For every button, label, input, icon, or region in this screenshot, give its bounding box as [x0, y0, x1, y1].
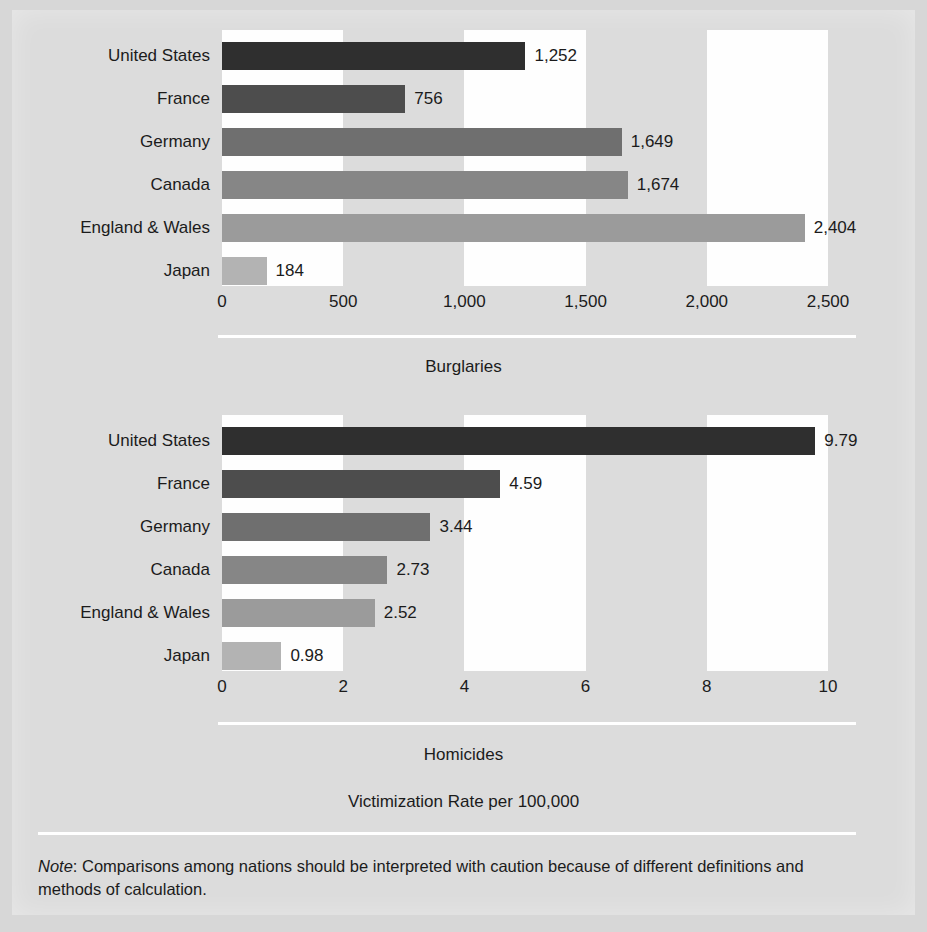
bar: [222, 171, 628, 199]
category-label: France: [157, 470, 222, 498]
bar-value-label: 1,674: [628, 171, 680, 199]
axis-tick-label: 0: [217, 677, 226, 697]
bar-row: England & Wales2.52: [222, 599, 828, 627]
category-label: England & Wales: [80, 599, 222, 627]
category-label: Canada: [150, 556, 222, 584]
bar-row: Canada2.73: [222, 556, 828, 584]
bar: [222, 257, 267, 285]
bar-row: France756: [222, 85, 828, 113]
category-label: United States: [108, 42, 222, 70]
category-label: Japan: [164, 257, 222, 285]
bar-value-label: 184: [267, 257, 304, 285]
bar-value-label: 2.73: [387, 556, 429, 584]
bar-value-label: 2,404: [805, 214, 857, 242]
chart-homicides: United States9.79France4.59Germany3.44Ca…: [222, 415, 828, 675]
bar-row: Japan184: [222, 257, 828, 285]
axis-tick-label: 6: [581, 677, 590, 697]
category-label: Japan: [164, 642, 222, 670]
bar-row: United States9.79: [222, 427, 828, 455]
bar-value-label: 3.44: [430, 513, 472, 541]
axis-tick-label: 500: [329, 292, 357, 312]
bar-value-label: 1,649: [622, 128, 674, 156]
axis-tick-label: 2,500: [807, 292, 850, 312]
bar-row: Germany1,649: [222, 128, 828, 156]
axis-tick-label: 1,500: [564, 292, 607, 312]
chart-title-burglaries: Burglaries: [0, 357, 927, 377]
note-text: : Comparisons among nations should be in…: [38, 857, 804, 898]
axis-tick-label: 10: [819, 677, 838, 697]
bar-row: Germany3.44: [222, 513, 828, 541]
plot-area-homicides: United States9.79France4.59Germany3.44Ca…: [222, 415, 828, 671]
chart-title-homicides: Homicides: [0, 745, 927, 765]
figure-note: Note: Comparisons among nations should b…: [38, 855, 838, 902]
bar: [222, 513, 430, 541]
axis-caption: Victimization Rate per 100,000: [0, 792, 927, 812]
axis-tick-label: 8: [702, 677, 711, 697]
axis-tick-label: 2: [338, 677, 347, 697]
bar-value-label: 0.98: [281, 642, 323, 670]
bar: [222, 128, 622, 156]
divider-rule-top: [218, 335, 856, 338]
bar: [222, 85, 405, 113]
figure-panel: United States1,252France756Germany1,649C…: [0, 0, 927, 932]
x-axis-homicides: 0246810: [222, 677, 828, 703]
bar-value-label: 1,252: [525, 42, 577, 70]
note-label: Note: [38, 857, 73, 875]
axis-tick-label: 1,000: [443, 292, 486, 312]
bar-value-label: 756: [405, 85, 442, 113]
bar: [222, 427, 815, 455]
bar-row: Canada1,674: [222, 171, 828, 199]
category-label: Canada: [150, 171, 222, 199]
axis-tick-label: 2,000: [686, 292, 729, 312]
bar: [222, 42, 525, 70]
axis-tick-label: 0: [217, 292, 226, 312]
bar-row: Japan0.98: [222, 642, 828, 670]
category-label: France: [157, 85, 222, 113]
bar: [222, 470, 500, 498]
category-label: England & Wales: [80, 214, 222, 242]
bar-rows-homicides: United States9.79France4.59Germany3.44Ca…: [222, 415, 828, 671]
bar: [222, 214, 805, 242]
x-axis-burglaries: 05001,0001,5002,0002,500: [222, 292, 828, 318]
plot-area-burglaries: United States1,252France756Germany1,649C…: [222, 30, 828, 286]
bar-row: France4.59: [222, 470, 828, 498]
category-label: United States: [108, 427, 222, 455]
bar-rows-burglaries: United States1,252France756Germany1,649C…: [222, 30, 828, 286]
divider-rule-middle: [218, 722, 856, 725]
chart-burglaries: United States1,252France756Germany1,649C…: [222, 30, 828, 290]
axis-tick-label: 4: [460, 677, 469, 697]
bar-value-label: 9.79: [815, 427, 857, 455]
divider-rule-note: [38, 832, 856, 835]
bar-row: England & Wales2,404: [222, 214, 828, 242]
bar: [222, 556, 387, 584]
bar-row: United States1,252: [222, 42, 828, 70]
bar-value-label: 4.59: [500, 470, 542, 498]
bar-value-label: 2.52: [375, 599, 417, 627]
bar: [222, 642, 281, 670]
category-label: Germany: [140, 513, 222, 541]
category-label: Germany: [140, 128, 222, 156]
bar: [222, 599, 375, 627]
